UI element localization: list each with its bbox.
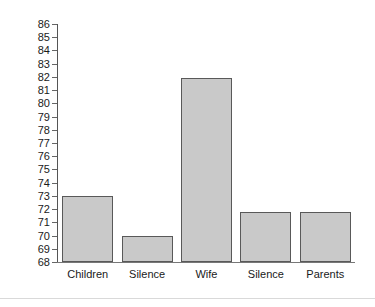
- y-axis-tick-label: 86: [0, 19, 50, 30]
- x-axis-line: [57, 262, 355, 263]
- y-axis-tick-mark: [52, 236, 57, 237]
- bottom-divider: [0, 298, 375, 299]
- plot-area: [58, 24, 355, 262]
- x-axis-tick-label: Wife: [177, 268, 236, 281]
- y-axis-tick-mark: [52, 77, 57, 78]
- y-axis-tick-mark: [52, 24, 57, 25]
- y-axis-tick-mark: [52, 103, 57, 104]
- y-axis-tick-mark: [52, 130, 57, 131]
- y-axis-tick-label: 77: [0, 138, 50, 149]
- y-axis-tick-mark: [52, 249, 57, 250]
- y-axis-tick-label: 84: [0, 45, 50, 56]
- bar: [181, 78, 232, 262]
- y-axis-tick-mark: [52, 117, 57, 118]
- bar: [300, 212, 351, 262]
- y-axis-tick-label: 85: [0, 32, 50, 43]
- y-axis-tick-mark: [52, 222, 57, 223]
- y-axis-tick-label: 69: [0, 243, 50, 254]
- y-axis-tick-mark: [52, 262, 57, 263]
- y-axis-tick-label: 70: [0, 230, 50, 241]
- y-axis-tick-mark: [52, 209, 57, 210]
- y-axis-tick-label: 79: [0, 111, 50, 122]
- y-axis-tick-label: 68: [0, 257, 50, 268]
- x-axis-tick-label: Silence: [117, 268, 176, 281]
- y-axis-tick-label: 71: [0, 217, 50, 228]
- y-axis-tick-mark: [52, 37, 57, 38]
- y-axis-tick-mark: [52, 183, 57, 184]
- bar: [122, 236, 173, 262]
- y-axis-tick-label: 82: [0, 71, 50, 82]
- y-axis-tick-label: 73: [0, 190, 50, 201]
- y-axis-tick-label: 83: [0, 58, 50, 69]
- y-axis-tick-label: 80: [0, 98, 50, 109]
- y-axis-tick-mark: [52, 64, 57, 65]
- bar: [62, 196, 113, 262]
- y-axis-tick-mark: [52, 90, 57, 91]
- x-axis-tick-label: Children: [58, 268, 117, 281]
- bar: [240, 212, 291, 262]
- y-axis-tick-mark: [52, 156, 57, 157]
- x-axis-tick-label: Silence: [236, 268, 295, 281]
- bar-chart-figure: 68697071727374757677787980818283848586 C…: [0, 0, 375, 307]
- y-axis-tick-mark: [52, 50, 57, 51]
- y-axis-tick-label: 76: [0, 151, 50, 162]
- y-axis-tick-label: 72: [0, 204, 50, 215]
- y-axis-tick-label: 75: [0, 164, 50, 175]
- y-axis-tick-mark: [52, 196, 57, 197]
- y-axis-tick-label: 81: [0, 85, 50, 96]
- x-axis-tick-label: Parents: [296, 268, 355, 281]
- y-axis-tick-mark: [52, 169, 57, 170]
- y-axis-tick-mark: [52, 143, 57, 144]
- y-axis-tick-label: 78: [0, 124, 50, 135]
- y-axis-tick-label: 74: [0, 177, 50, 188]
